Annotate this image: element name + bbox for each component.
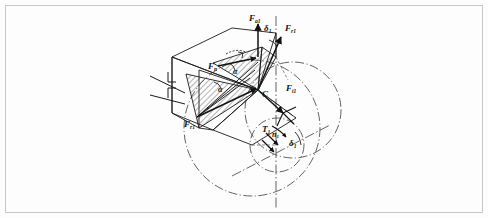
label-subscript: r1 bbox=[291, 28, 296, 34]
figure-label-delta-lower: δ1 bbox=[289, 139, 296, 149]
figure-label-F-r1-lower: Fr1 bbox=[184, 120, 195, 130]
figure-label-F-r1-right: Fr1 bbox=[285, 24, 296, 34]
label-subscript: r1 bbox=[190, 124, 195, 130]
figure-drawing bbox=[0, 0, 488, 218]
figure-label-n-1: n1 bbox=[272, 131, 279, 140]
label-base: α bbox=[218, 85, 222, 94]
label-subscript: 1 bbox=[276, 134, 278, 139]
label-subscript: 1 bbox=[294, 143, 297, 149]
figure-label-F-a1-top: Fa1 bbox=[249, 14, 261, 24]
label-subscript: 1 bbox=[269, 28, 272, 34]
label-base: α bbox=[233, 67, 237, 76]
label-subscript: a1 bbox=[255, 18, 261, 24]
figure-label-T-1: T1 bbox=[262, 125, 270, 135]
figure-label-point-C: C bbox=[262, 90, 268, 99]
figure-label-F-n-left: Fn bbox=[208, 62, 217, 72]
figure-label-F-t1-right: Ft1 bbox=[286, 84, 296, 94]
figure-label-delta-top: δ1 bbox=[264, 24, 271, 34]
label-base: C bbox=[262, 89, 268, 99]
label-subscript: t1 bbox=[292, 88, 296, 94]
figure-label-alpha-upper: α bbox=[233, 68, 237, 76]
label-subscript: n bbox=[214, 66, 217, 72]
figure-label-alpha-lower: α bbox=[218, 86, 222, 94]
figure-border bbox=[6, 6, 483, 213]
label-subscript: 1 bbox=[268, 129, 271, 135]
figure-frame: Fa1Fr1FnFt1Fr1T1n1Cδ1δ1αα bbox=[0, 0, 488, 218]
